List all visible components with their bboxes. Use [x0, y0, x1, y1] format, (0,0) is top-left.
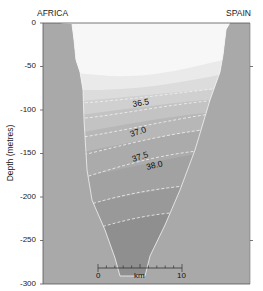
- spain-label: SPAIN: [226, 8, 251, 18]
- salinity-cross-section: 36.5 37.0 37.5 38.0: [0, 0, 263, 291]
- y-tick-100: -100: [6, 105, 36, 114]
- y-tick-200: -200: [6, 192, 36, 201]
- scale-unit: km: [134, 271, 145, 280]
- scale-start: 0: [96, 271, 101, 280]
- y-tick-0: 0: [6, 18, 36, 27]
- scale-end: 10: [177, 271, 186, 280]
- africa-label: AFRICA: [37, 8, 68, 18]
- y-tick-50: -50: [6, 61, 36, 70]
- y-tick-300: -300: [6, 279, 36, 288]
- y-axis-label: Depth (metres): [5, 118, 15, 188]
- y-tick-250: -250: [6, 235, 36, 244]
